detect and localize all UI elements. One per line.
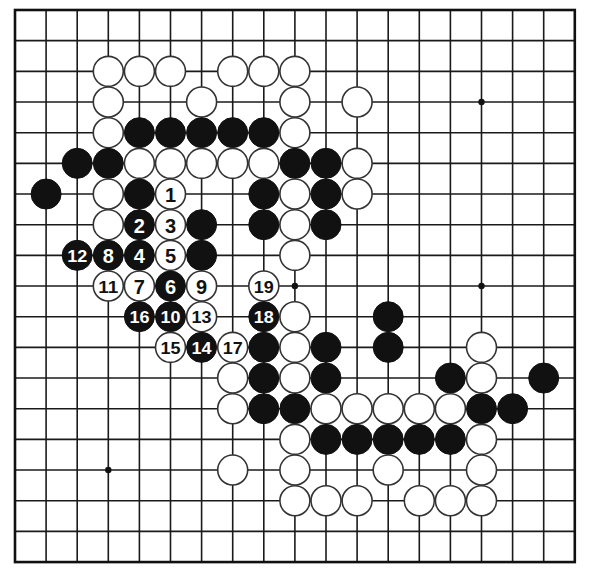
white-stone-move-13[interactable]: 13 (187, 302, 217, 332)
white-stone[interactable] (373, 455, 403, 485)
white-stone[interactable] (280, 424, 310, 454)
white-stone[interactable] (280, 87, 310, 117)
white-stone[interactable] (435, 486, 465, 516)
black-stone[interactable] (311, 332, 341, 362)
white-stone[interactable] (280, 486, 310, 516)
white-stone-move-7[interactable]: 7 (124, 271, 154, 301)
white-stone[interactable] (93, 87, 123, 117)
white-stone[interactable] (218, 455, 248, 485)
white-stone[interactable] (342, 148, 372, 178)
white-stone-move-17[interactable]: 17 (218, 332, 248, 362)
black-stone-move-2[interactable]: 2 (124, 210, 154, 240)
white-stone[interactable] (187, 148, 217, 178)
white-stone[interactable] (156, 148, 186, 178)
white-stone[interactable] (218, 363, 248, 393)
black-stone-move-16[interactable]: 16 (124, 302, 154, 332)
white-stone[interactable] (124, 56, 154, 86)
white-stone-move-15[interactable]: 15 (156, 332, 186, 362)
white-stone[interactable] (342, 179, 372, 209)
white-stone[interactable] (435, 394, 465, 424)
black-stone[interactable] (249, 332, 279, 362)
white-stone[interactable] (124, 148, 154, 178)
black-stone[interactable] (311, 148, 341, 178)
white-stone[interactable] (249, 148, 279, 178)
black-stone[interactable] (93, 148, 123, 178)
white-stone[interactable] (218, 148, 248, 178)
black-stone-move-10[interactable]: 10 (156, 302, 186, 332)
black-stone[interactable] (373, 332, 403, 362)
white-stone[interactable] (342, 87, 372, 117)
black-stone[interactable] (311, 363, 341, 393)
white-stone-move-5[interactable]: 5 (156, 240, 186, 270)
white-stone[interactable] (249, 56, 279, 86)
white-stone-move-1[interactable]: 1 (156, 179, 186, 209)
white-stone-move-3[interactable]: 3 (156, 210, 186, 240)
black-stone[interactable] (498, 394, 528, 424)
white-stone[interactable] (280, 332, 310, 362)
black-stone[interactable] (249, 179, 279, 209)
white-stone[interactable] (342, 394, 372, 424)
black-stone[interactable] (124, 179, 154, 209)
black-stone[interactable] (404, 424, 434, 454)
black-stone[interactable] (311, 179, 341, 209)
white-stone[interactable] (311, 394, 341, 424)
white-stone-move-19[interactable]: 19 (249, 271, 279, 301)
black-stone[interactable] (280, 148, 310, 178)
black-stone-move-14[interactable]: 14 (187, 332, 217, 362)
white-stone[interactable] (156, 56, 186, 86)
white-stone[interactable] (280, 455, 310, 485)
white-stone[interactable] (93, 210, 123, 240)
white-stone[interactable] (404, 486, 434, 516)
white-stone[interactable] (218, 56, 248, 86)
black-stone[interactable] (187, 210, 217, 240)
white-stone[interactable] (467, 424, 497, 454)
black-stone[interactable] (124, 118, 154, 148)
black-stone-move-6[interactable]: 6 (156, 271, 186, 301)
white-stone[interactable] (280, 210, 310, 240)
black-stone-move-8[interactable]: 8 (93, 240, 123, 270)
white-stone[interactable] (467, 363, 497, 393)
white-stone[interactable] (93, 56, 123, 86)
white-stone[interactable] (280, 240, 310, 270)
black-stone-move-18[interactable]: 18 (249, 302, 279, 332)
white-stone[interactable] (280, 179, 310, 209)
white-stone[interactable] (280, 302, 310, 332)
black-stone[interactable] (435, 363, 465, 393)
white-stone[interactable] (280, 118, 310, 148)
black-stone[interactable] (435, 424, 465, 454)
black-stone[interactable] (249, 363, 279, 393)
black-stone[interactable] (373, 302, 403, 332)
white-stone-move-11[interactable]: 11 (93, 271, 123, 301)
black-stone[interactable] (249, 210, 279, 240)
black-stone[interactable] (311, 210, 341, 240)
white-stone-move-9[interactable]: 9 (187, 271, 217, 301)
black-stone[interactable] (311, 424, 341, 454)
white-stone[interactable] (187, 87, 217, 117)
white-stone[interactable] (467, 332, 497, 362)
white-stone[interactable] (467, 455, 497, 485)
black-stone[interactable] (187, 240, 217, 270)
white-stone[interactable] (467, 486, 497, 516)
black-stone[interactable] (467, 394, 497, 424)
white-stone[interactable] (342, 486, 372, 516)
white-stone[interactable] (218, 394, 248, 424)
black-stone-move-4[interactable]: 4 (124, 240, 154, 270)
go-board[interactable]: 12312845117691916101318151417 (0, 0, 591, 586)
black-stone[interactable] (156, 118, 186, 148)
white-stone[interactable] (93, 179, 123, 209)
black-stone[interactable] (31, 179, 61, 209)
black-stone[interactable] (249, 394, 279, 424)
white-stone[interactable] (280, 56, 310, 86)
black-stone[interactable] (280, 394, 310, 424)
black-stone[interactable] (62, 148, 92, 178)
white-stone[interactable] (93, 118, 123, 148)
black-stone[interactable] (373, 424, 403, 454)
black-stone[interactable] (342, 424, 372, 454)
black-stone-move-12[interactable]: 12 (62, 240, 92, 270)
white-stone[interactable] (280, 363, 310, 393)
white-stone[interactable] (404, 394, 434, 424)
black-stone[interactable] (187, 118, 217, 148)
black-stone[interactable] (529, 363, 559, 393)
black-stone[interactable] (218, 118, 248, 148)
white-stone[interactable] (373, 394, 403, 424)
